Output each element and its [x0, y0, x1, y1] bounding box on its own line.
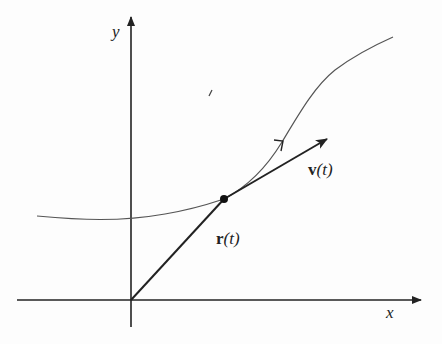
space-curve — [37, 37, 393, 220]
velocity-vector-arg: (t) — [317, 160, 333, 179]
position-vector — [131, 199, 224, 300]
position-vector-arg: (t) — [224, 229, 240, 248]
stray-mark — [209, 90, 212, 96]
diagram-graphics — [0, 0, 442, 344]
diagram-canvas: y x r(t) v(t) — [0, 0, 442, 344]
position-vector-label: r(t) — [216, 229, 240, 249]
y-axis-label: y — [112, 22, 120, 42]
velocity-vector-symbol: v — [308, 160, 317, 179]
position-vector-symbol: r — [216, 229, 224, 248]
velocity-vector-label: v(t) — [308, 160, 333, 180]
point-on-curve — [220, 195, 228, 203]
x-axis-label: x — [386, 303, 394, 323]
